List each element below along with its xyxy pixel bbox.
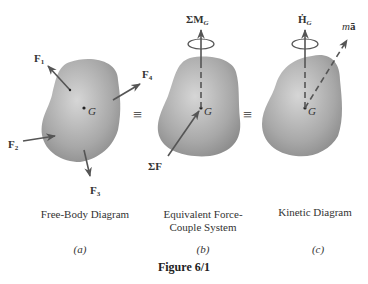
diagram-canvas: G F1 F4 F2 F3 ≡ G ΣMG ΣF ≡ G ḢG mā <box>0 0 368 284</box>
label-sum-moment: ΣMG <box>186 13 209 27</box>
caption-c: Kinetic Diagram <box>265 206 365 219</box>
panel-a-body <box>42 59 121 162</box>
label-ma: mā <box>342 20 356 32</box>
equivalence-symbol-1: ≡ <box>133 106 142 123</box>
label-f2: F2 <box>8 138 19 152</box>
sub-label-a: (a) <box>60 243 100 255</box>
label-f1: F1 <box>34 52 45 66</box>
label-g-b: G <box>204 105 212 117</box>
equivalence-symbol-2: ≡ <box>243 106 252 123</box>
label-sum-force: ΣF <box>148 160 162 172</box>
sub-label-b: (b) <box>183 243 223 255</box>
panel-b-body <box>158 57 240 157</box>
figure-title: Figure 6/1 <box>0 260 368 275</box>
label-h-dot: ḢG <box>298 13 312 27</box>
label-f4: F4 <box>142 68 153 82</box>
label-f3: F3 <box>90 184 101 198</box>
caption-b-line2: Couple System <box>148 221 258 234</box>
center-of-mass-a <box>82 106 85 109</box>
caption-b: Equivalent Force- Couple System <box>148 208 258 234</box>
caption-b-line1: Equivalent Force- <box>148 208 258 221</box>
label-g-a: G <box>88 105 96 117</box>
caption-a: Free-Body Diagram <box>30 208 140 221</box>
panel-c-body <box>262 55 342 156</box>
sub-label-c: (c) <box>298 243 338 255</box>
label-g-c: G <box>308 105 316 117</box>
figure-6-1: G F1 F4 F2 F3 ≡ G ΣMG ΣF ≡ G ḢG mā Free-… <box>0 0 368 284</box>
